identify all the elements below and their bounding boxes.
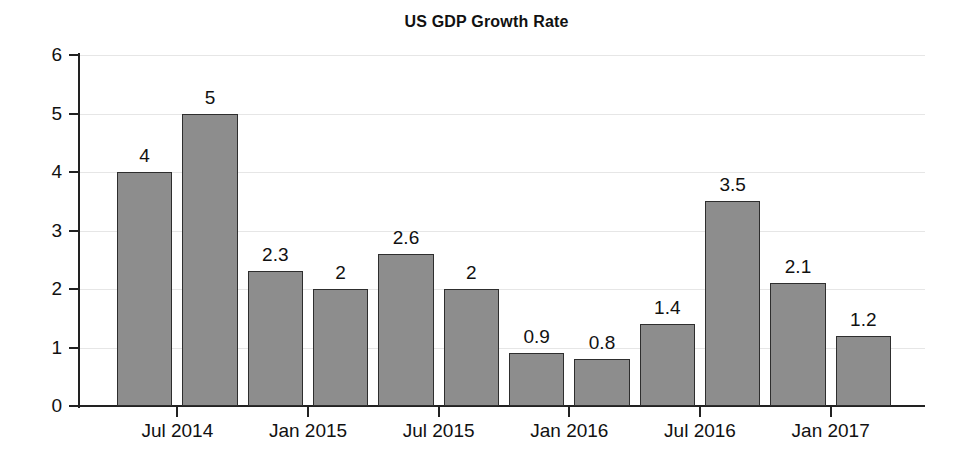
y-tick-label: 3	[0, 220, 62, 242]
x-tick-label: Jan 2017	[792, 420, 870, 442]
y-tick-label: 4	[0, 161, 62, 183]
bar[interactable]	[444, 289, 499, 406]
bar-value-label: 4	[139, 145, 150, 167]
bar-value-label: 0.9	[523, 326, 549, 348]
bar[interactable]	[182, 114, 237, 407]
bar[interactable]	[378, 254, 433, 406]
y-tick-mark	[69, 347, 79, 349]
bar-value-label: 2.3	[262, 244, 288, 266]
x-tick-mark	[438, 406, 440, 417]
y-tick-mark	[69, 171, 79, 173]
y-tick-mark	[69, 54, 79, 56]
bar[interactable]	[117, 172, 172, 406]
bar-value-label: 2	[466, 262, 477, 284]
x-tick-label: Jan 2016	[530, 420, 608, 442]
y-tick-mark	[69, 113, 79, 115]
bar[interactable]	[836, 336, 891, 406]
bar-value-label: 1.2	[850, 309, 876, 331]
x-tick-mark	[830, 406, 832, 417]
x-tick-label: Jan 2015	[269, 420, 347, 442]
bar-value-label: 3.5	[719, 174, 745, 196]
y-tick-label: 5	[0, 103, 62, 125]
gridline	[78, 55, 925, 56]
bar-value-label: 2.6	[393, 227, 419, 249]
y-tick-mark	[69, 230, 79, 232]
x-tick-label: Jul 2015	[403, 420, 475, 442]
y-tick-label: 1	[0, 337, 62, 359]
x-tick-mark	[307, 406, 309, 417]
bar-value-label: 0.8	[589, 332, 615, 354]
x-tick-label: Jul 2014	[141, 420, 213, 442]
bar-chart: US GDP Growth Rate Jul 2014Jan 2015Jul 2…	[0, 0, 973, 461]
x-tick-mark	[699, 406, 701, 417]
bar-value-label: 2	[335, 262, 346, 284]
bar[interactable]	[770, 283, 825, 406]
y-tick-mark	[69, 288, 79, 290]
y-tick-label: 6	[0, 44, 62, 66]
bar[interactable]	[313, 289, 368, 406]
bar[interactable]	[640, 324, 695, 406]
x-tick-mark	[176, 406, 178, 417]
y-tick-mark	[69, 405, 79, 407]
bar-value-label: 5	[205, 87, 216, 109]
bar-value-label: 1.4	[654, 297, 680, 319]
y-tick-label: 2	[0, 278, 62, 300]
bar[interactable]	[248, 271, 303, 406]
chart-title: US GDP Growth Rate	[0, 13, 973, 31]
x-tick-label: Jul 2016	[664, 420, 736, 442]
bar[interactable]	[705, 201, 760, 406]
bar-value-label: 2.1	[785, 256, 811, 278]
bar[interactable]	[509, 353, 564, 406]
bar[interactable]	[574, 359, 629, 406]
y-tick-label: 0	[0, 395, 62, 417]
x-tick-mark	[568, 406, 570, 417]
